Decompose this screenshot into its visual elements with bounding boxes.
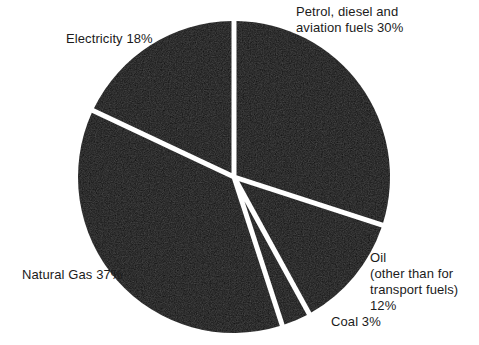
pie-chart-figure: Petrol, diesel and aviation fuels 30% El… [0,0,479,345]
pie-slices-group [78,21,390,333]
pie-chart-canvas [0,0,479,345]
